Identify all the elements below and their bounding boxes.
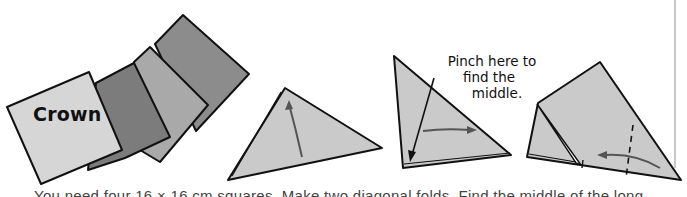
caption-line: You need four 16 × 16 cm squares. Make t… <box>34 187 687 197</box>
fold-triangle-1 <box>228 88 382 180</box>
crown-title-label: Crown <box>33 103 101 125</box>
origami-crown-instructions: Crown Pinch here to find the middle. You… <box>0 0 687 197</box>
caption-text-clipped: You need four 16 × 16 cm squares. Make t… <box>34 187 687 197</box>
annotation-line-2: find the <box>428 69 550 85</box>
pinch-annotation: Pinch here to find the middle. <box>430 53 550 101</box>
annotation-line-1: Pinch here to <box>434 53 550 69</box>
illustration-canvas <box>0 0 687 197</box>
annotation-line-3: middle. <box>444 85 550 101</box>
paper-squares <box>7 15 249 184</box>
fold-shape-3 <box>527 62 681 180</box>
page-divider <box>674 0 676 168</box>
